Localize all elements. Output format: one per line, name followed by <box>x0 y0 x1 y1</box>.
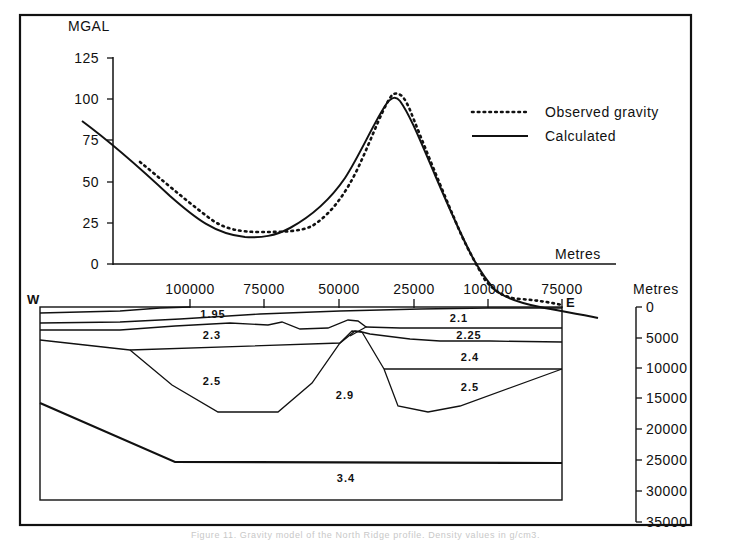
density-label: 2.25 <box>456 329 481 341</box>
distance-tick-labels: 100000 75000 50000 25000 100000 75000 <box>165 281 583 297</box>
depth-tick-label: 0 <box>646 299 654 315</box>
density-label: 2.9 <box>336 389 354 401</box>
distance-tick-label: 100000 <box>463 281 513 297</box>
density-label: 2.1 <box>450 312 468 324</box>
depth-tick-label: 5000 <box>646 330 679 346</box>
gravity-chart: MGAL 125 100 75 50 25 0 Metres <box>68 18 659 318</box>
density-label: 2.5 <box>203 375 221 387</box>
y-tick-label: 0 <box>91 256 99 272</box>
x-axis-title: Metres <box>555 246 601 262</box>
y-tick-label: 25 <box>82 215 99 231</box>
legend-calculated-label: Calculated <box>545 128 616 144</box>
layer-boundaries <box>40 307 562 463</box>
density-label: 3.4 <box>337 472 355 484</box>
depth-tick-label: 35000 <box>646 514 687 530</box>
y-tick-labels: 125 100 75 50 25 0 <box>74 50 99 272</box>
figure-caption: Figure 11. Gravity model of the North Ri… <box>0 530 731 540</box>
density-label: 2.5 <box>461 381 479 393</box>
distance-tick-label: 50000 <box>318 281 359 297</box>
density-cross-section: W E 100000 75000 50000 25000 100000 7500… <box>27 281 687 530</box>
density-label: 1.95 <box>200 308 225 320</box>
gravity-model-figure: MGAL 125 100 75 50 25 0 Metres <box>0 0 731 547</box>
depth-tick-label: 15000 <box>646 390 687 406</box>
y-tick-label: 50 <box>82 174 99 190</box>
depth-axis-title: Metres <box>633 281 679 297</box>
depth-tick-label: 25000 <box>646 452 687 468</box>
distance-tick-label: 25000 <box>393 281 434 297</box>
depth-tick-label: 10000 <box>646 360 687 376</box>
legend: Observed gravity Calculated <box>472 104 659 144</box>
section-box <box>40 307 562 500</box>
density-label: 2.4 <box>461 351 479 363</box>
legend-observed-label: Observed gravity <box>545 104 659 120</box>
distance-tick-label: 75000 <box>541 281 582 297</box>
depth-tick-labels: 0 5000 10000 15000 20000 25000 30000 350… <box>646 299 687 530</box>
distance-tick-label: 75000 <box>243 281 284 297</box>
density-labels: 1.95 2.1 2.3 2.25 2.4 2.5 2.9 2.5 3.4 <box>200 308 481 484</box>
y-tick-label: 125 <box>74 50 99 66</box>
y-tick-label: 75 <box>82 132 99 148</box>
figure-frame <box>20 15 691 525</box>
depth-ticks <box>636 307 642 522</box>
y-tick-label: 100 <box>74 91 99 107</box>
observed-gravity-curve <box>140 94 562 305</box>
depth-tick-label: 30000 <box>646 483 687 499</box>
west-label: W <box>27 292 40 307</box>
y-ticks <box>107 58 113 264</box>
y-axis-title: MGAL <box>68 18 110 34</box>
density-label: 2.3 <box>203 329 221 341</box>
distance-tick-label: 100000 <box>165 281 215 297</box>
depth-tick-label: 20000 <box>646 421 687 437</box>
east-label: E <box>566 295 575 310</box>
